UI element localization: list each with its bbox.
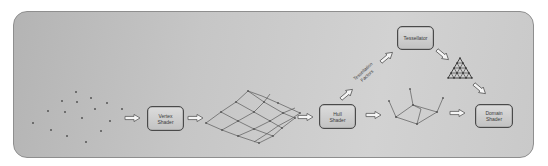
diagram-canvas <box>0 0 548 166</box>
arrow-hull-to-control-points-icon <box>366 111 381 118</box>
arrow-to-hull-shader-icon <box>298 113 313 120</box>
domain-shader-box: Domain Shader <box>475 104 513 128</box>
arrow-tessellator-to-triangle-icon <box>435 47 451 62</box>
triangle-vertices <box>447 57 473 79</box>
tessellator-label: Tessellator <box>404 35 428 41</box>
hull-shader-label: Hull Shader <box>329 111 345 123</box>
hull-shader-box: Hull Shader <box>319 104 356 129</box>
arrow-factors-to-tessellator-icon <box>379 50 395 65</box>
arrow-to-domain-shader-icon <box>450 109 465 116</box>
patch-grid-vertices <box>205 90 301 144</box>
vertex-shader-label: Vertex Shader <box>157 113 173 125</box>
arrow-to-patch-icon <box>188 114 203 121</box>
domain-shader-label: Domain Shader <box>485 110 502 122</box>
arrow-triangle-to-domain-icon <box>472 81 488 96</box>
arrow-hull-to-factors-icon <box>339 87 355 102</box>
patch-grid-illustration <box>206 91 300 143</box>
arrow-to-vertex-shader-icon <box>125 114 140 121</box>
input-vertices-illustration <box>32 91 123 143</box>
control-points-illustration <box>389 89 443 124</box>
vertex-shader-box: Vertex Shader <box>147 106 184 131</box>
tessellator-box: Tessellator <box>397 26 434 50</box>
